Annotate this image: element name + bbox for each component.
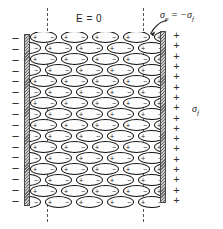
dipole: +−: [61, 53, 88, 65]
dipole-positive-charge: +: [64, 144, 68, 151]
dipole-negative-charge: −: [96, 199, 100, 206]
dipole-negative-charge: −: [143, 166, 147, 173]
dipole-negative-charge: −: [127, 155, 131, 162]
dipole: +−: [107, 86, 134, 98]
dipole: +−: [123, 53, 150, 65]
dipole: +−: [154, 141, 160, 153]
dipole-negative-charge: −: [50, 122, 54, 129]
dipole-row: +−+−+−+−+−: [30, 98, 160, 109]
dipole-positive-charge: +: [79, 89, 83, 96]
dipole: +−: [107, 152, 134, 164]
dipole-negative-charge: −: [50, 56, 54, 63]
dipole-positive-charge: +: [64, 100, 68, 107]
dipole: +−: [92, 53, 119, 65]
free-charge-plus-sign: +: [173, 63, 179, 70]
dipole-positive-charge: +: [157, 56, 160, 63]
dipole-positive-charge: +: [95, 144, 99, 151]
dipole: +−: [154, 163, 160, 175]
dipole-negative-charge: −: [96, 67, 100, 74]
dipole-positive-charge: +: [33, 78, 37, 85]
dipole-positive-charge: +: [157, 100, 160, 107]
dipole-negative-charge: −: [96, 89, 100, 96]
dipole-negative-charge: −: [158, 155, 160, 162]
dipole: +−: [76, 42, 103, 54]
dipole: +−: [45, 196, 72, 208]
dipole: +−: [138, 174, 160, 186]
dipole: +−: [61, 75, 88, 87]
dipole-positive-charge: +: [110, 155, 114, 162]
dipole: +−: [123, 185, 150, 197]
dipole: +−: [30, 141, 57, 153]
dipole-positive-charge: +: [157, 34, 160, 41]
dipole-negative-charge: −: [34, 89, 38, 96]
dipole-negative-charge: −: [96, 111, 100, 118]
dipole-negative-charge: −: [34, 111, 38, 118]
dipole: +−: [30, 163, 57, 175]
dipole-positive-charge: +: [33, 34, 37, 41]
dipole-positive-charge: +: [141, 155, 145, 162]
dipole-positive-charge: +: [48, 111, 52, 118]
dipole-negative-charge: −: [34, 133, 38, 140]
dipole-negative-charge: −: [81, 34, 85, 41]
dipole-positive-charge: +: [126, 166, 130, 173]
free-charge-plus-sign: +: [173, 176, 179, 183]
dipole-positive-charge: +: [110, 111, 114, 118]
dipole-positive-charge: +: [64, 166, 68, 173]
free-charge-plus-sign: +: [173, 197, 179, 204]
dipole: +−: [123, 163, 150, 175]
dipole-positive-charge: +: [95, 78, 99, 85]
dipole-positive-charge: +: [79, 155, 83, 162]
dipole-negative-charge: −: [50, 34, 54, 41]
dipole-positive-charge: +: [110, 199, 114, 206]
dipole-negative-charge: −: [65, 199, 69, 206]
dipole-negative-charge: −: [127, 199, 131, 206]
dipole-positive-charge: +: [141, 133, 145, 140]
dipole: +−: [92, 163, 119, 175]
dipole: +−: [138, 42, 160, 54]
dipole-positive-charge: +: [126, 78, 130, 85]
free-charge-minus-sign: −: [12, 187, 20, 194]
dipole-positive-charge: +: [79, 111, 83, 118]
dipole-positive-charge: +: [33, 188, 37, 195]
free-charge-subscript-ref: f: [192, 15, 194, 23]
dipole-positive-charge: +: [141, 199, 145, 206]
dipole-negative-charge: −: [65, 177, 69, 184]
dipole-positive-charge: +: [141, 111, 145, 118]
dipole-positive-charge: +: [110, 89, 114, 96]
dipole: +−: [92, 185, 119, 197]
free-charge-minus-sign: −: [12, 46, 20, 53]
dipole-positive-charge: +: [64, 122, 68, 129]
dipole-positive-charge: +: [157, 188, 160, 195]
dipole-positive-charge: +: [110, 67, 114, 74]
free-charge-subscript: f: [197, 109, 199, 117]
dipole-row: +−+−+−+−+−: [30, 120, 160, 131]
dipole: +−: [138, 108, 160, 120]
dipole-negative-charge: −: [65, 67, 69, 74]
dipole: +−: [154, 75, 160, 87]
dipole-positive-charge: +: [110, 45, 114, 52]
free-charge-plus-sign: +: [173, 187, 179, 194]
dipole-positive-charge: +: [95, 34, 99, 41]
dipole: +−: [154, 53, 160, 65]
dipole: +−: [76, 174, 103, 186]
dipole: +−: [45, 86, 72, 98]
dipole-positive-charge: +: [95, 122, 99, 129]
dipole-negative-charge: −: [50, 100, 54, 107]
dipole: +−: [138, 196, 160, 208]
dipole-negative-charge: −: [65, 111, 69, 118]
dipole: +−: [92, 32, 119, 43]
dipole-positive-charge: +: [33, 100, 37, 107]
dipole-positive-charge: +: [79, 199, 83, 206]
free-charge-minus-sign: −: [12, 111, 20, 118]
dipole-positive-charge: +: [79, 67, 83, 74]
dipole-positive-charge: +: [126, 188, 130, 195]
dipole-negative-charge: −: [65, 45, 69, 52]
free-charge-plus-sign: +: [173, 42, 179, 49]
dipole-row: +−+−+−+−+−: [30, 186, 160, 197]
dipole-negative-charge: −: [143, 188, 147, 195]
dipole-negative-charge: −: [112, 56, 116, 63]
dipole-positive-charge: +: [48, 155, 52, 162]
dipole-negative-charge: −: [143, 100, 147, 107]
dipole-negative-charge: −: [112, 122, 116, 129]
dipole-row: +−+−+−+−+−: [30, 164, 160, 175]
